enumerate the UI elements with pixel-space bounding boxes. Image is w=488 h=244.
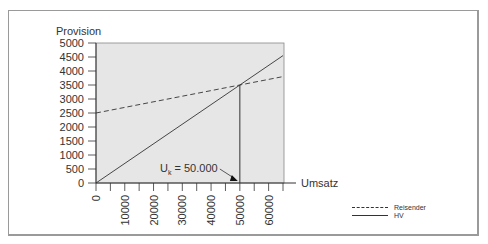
- svg-text:3500: 3500: [60, 79, 84, 91]
- svg-text:50000: 50000: [234, 195, 246, 226]
- svg-text:3000: 3000: [60, 93, 84, 105]
- svg-text:10000: 10000: [119, 195, 131, 226]
- legend-item-reisender: Reisender: [352, 204, 426, 211]
- svg-text:0: 0: [90, 195, 102, 201]
- svg-text:30000: 30000: [176, 195, 188, 226]
- svg-text:4500: 4500: [60, 51, 84, 63]
- legend-label: HV: [394, 212, 404, 219]
- svg-text:40000: 40000: [205, 195, 217, 226]
- svg-text:2500: 2500: [60, 107, 84, 119]
- svg-text:4000: 4000: [60, 65, 84, 77]
- svg-text:60000: 60000: [263, 195, 275, 226]
- svg-text:500: 500: [66, 163, 84, 175]
- svg-text:1500: 1500: [60, 135, 84, 147]
- svg-text:0: 0: [78, 177, 84, 189]
- legend-label: Reisender: [394, 204, 426, 211]
- solid-line-swatch-icon: [352, 215, 388, 216]
- svg-text:20000: 20000: [148, 195, 160, 226]
- legend-item-hv: HV: [352, 212, 404, 219]
- svg-text:5000: 5000: [60, 37, 84, 49]
- break-even-annotation: Uk = 50.000: [160, 162, 218, 176]
- svg-text:2000: 2000: [60, 121, 84, 133]
- dashed-line-swatch-icon: [352, 207, 388, 208]
- svg-text:1000: 1000: [60, 149, 84, 161]
